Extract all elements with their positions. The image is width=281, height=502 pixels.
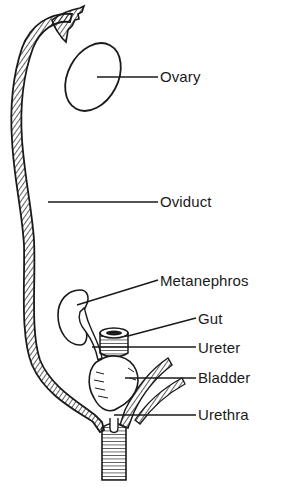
label-ovary: Ovary	[160, 69, 201, 84]
metanephros	[58, 290, 102, 360]
oviduct-funnel	[52, 6, 84, 42]
metanephros-leader-line	[77, 280, 158, 305]
gut	[100, 328, 128, 357]
urogenital-diagram	[0, 0, 281, 502]
label-oviduct: Oviduct	[160, 194, 212, 209]
gut-leader-line	[128, 318, 196, 336]
label-bladder: Bladder	[198, 370, 250, 385]
label-metanephros: Metanephros	[160, 273, 249, 288]
label-gut: Gut	[198, 311, 222, 326]
label-ureter: Ureter	[198, 340, 240, 355]
urethra	[102, 418, 126, 480]
label-urethra: Urethra	[198, 407, 249, 422]
